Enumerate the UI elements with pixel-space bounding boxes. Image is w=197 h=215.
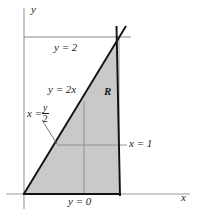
label-y-equals-0: y = 0	[68, 196, 91, 207]
label-x-equals-lhs: x =	[27, 107, 42, 119]
x-axis-label: x	[181, 192, 186, 203]
label-y-equals-2: y = 2	[54, 42, 77, 53]
label-region-R: R	[104, 86, 111, 97]
y-axis-label: y	[31, 4, 36, 15]
label-y-equals-2x: y = 2x	[48, 84, 76, 95]
label-x-equals-y-over-2: x =y2	[27, 104, 49, 125]
integration-region-figure: y x y = 2 y = 2x x =y2 R x = 1 y = 0	[0, 0, 197, 215]
fraction-y-over-2: y2	[42, 103, 48, 124]
label-x-equals-1: x = 1	[129, 138, 152, 149]
fraction-denominator: 2	[42, 114, 48, 124]
